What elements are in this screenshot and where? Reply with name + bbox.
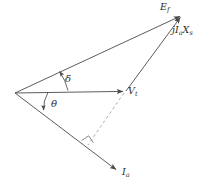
vector-vt [15, 91, 123, 93]
vector-ef [15, 16, 180, 93]
label-vt-main: V [128, 85, 135, 96]
label-vt: Vt [128, 86, 138, 96]
label-angle-delta: δ [65, 74, 71, 84]
label-vt-subscript: t [135, 90, 138, 98]
dashed-projection-line [88, 93, 124, 145]
label-ia: Ia [122, 167, 130, 177]
label-jiaxs-i-subscript: a [179, 29, 183, 37]
label-angle-theta: θ [51, 99, 57, 109]
label-ef: Ef [160, 2, 169, 12]
phasor-diagram: Ef jIaXs Vt Ia δ θ [0, 0, 205, 196]
label-jiaxs: jIaXs [172, 25, 193, 35]
label-jiaxs-x-subscript: s [189, 29, 192, 37]
label-ef-main: E [160, 1, 167, 12]
angle-arc-theta [44, 92, 48, 110]
label-ef-subscript: f [167, 6, 169, 14]
label-ia-subscript: a [126, 171, 130, 179]
vector-ia [15, 93, 116, 170]
